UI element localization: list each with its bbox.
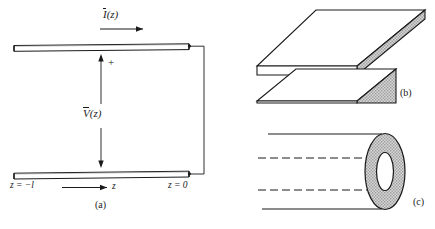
current-arg: (z) (107, 8, 119, 20)
current-symbol: I (103, 8, 107, 20)
coax-inner-ellipse (377, 153, 394, 191)
voltage-label: V(z) (83, 107, 101, 119)
polarity-plus-label: + (108, 57, 114, 68)
figure-drawing (0, 0, 435, 229)
panel-c-caption: (c) (413, 197, 424, 207)
z-axis-label: z (112, 182, 116, 192)
panel-a-caption: (a) (95, 200, 106, 210)
z-right-label: z = 0 (168, 181, 188, 191)
voltage-arg: (z) (90, 107, 102, 119)
bottom-conductor (14, 171, 189, 179)
current-arrow (100, 26, 143, 31)
figure-transmission-line-structures: I(z) + V(z) z = −l z z = 0 (a) (b) (c) (0, 0, 435, 229)
bottom-plate-front (257, 101, 357, 103)
top-conductor (14, 44, 189, 52)
panel-b-caption: (b) (400, 88, 412, 98)
current-label: I(z) (103, 8, 118, 20)
z-left-label: z = −l (10, 181, 34, 191)
voltage-symbol: V (83, 107, 90, 119)
z-axis-arrow (62, 185, 107, 190)
terminating-wire (188, 44, 204, 175)
panel-a-drawing (14, 26, 204, 190)
panel-c-drawing (258, 134, 405, 210)
